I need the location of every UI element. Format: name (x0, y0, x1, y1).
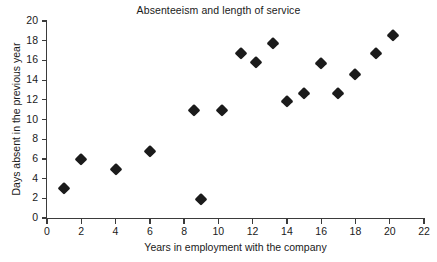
x-tick-mark (81, 219, 82, 224)
y-tick-label: 16 (14, 54, 38, 65)
data-point-marker (188, 104, 200, 116)
data-point-marker (332, 87, 344, 99)
data-point-marker (144, 145, 156, 157)
x-tick-mark (115, 219, 116, 224)
x-tick-label: 8 (172, 226, 196, 237)
data-point-marker (370, 47, 382, 59)
y-tick-label: 12 (14, 94, 38, 105)
x-tick-label: 4 (104, 226, 128, 237)
x-axis-label: Years in employment with the company (47, 241, 424, 253)
x-tick-mark (46, 219, 47, 224)
x-tick-label: 14 (275, 226, 299, 237)
y-tick-label-text: 12 (16, 94, 38, 105)
y-tick-label-text: 0 (16, 212, 38, 223)
x-tick-label: 2 (69, 226, 93, 237)
x-tick-mark (183, 219, 184, 224)
x-tick-label: 16 (309, 226, 333, 237)
y-tick-label: 20 (14, 15, 38, 26)
x-tick-label: 6 (138, 226, 162, 237)
y-tick-label-text: 8 (16, 133, 38, 144)
data-point-marker (298, 87, 310, 99)
x-tick-label: 0 (35, 226, 59, 237)
x-axis-line (47, 218, 425, 219)
x-tick-mark (286, 219, 287, 224)
data-point-marker (110, 163, 122, 175)
data-point-marker (281, 95, 293, 107)
y-tick-label: 4 (14, 173, 38, 184)
data-point-marker (349, 68, 361, 80)
data-point-marker (195, 193, 207, 205)
x-tick-mark (389, 219, 390, 224)
y-tick-label-text: 16 (16, 54, 38, 65)
y-tick-label-text: 14 (16, 74, 38, 85)
x-tick-mark (149, 219, 150, 224)
y-tick-label-text: 10 (16, 114, 38, 125)
y-tick-label-text: 6 (16, 153, 38, 164)
data-point-marker (75, 153, 87, 165)
y-tick-label: 14 (14, 74, 38, 85)
x-tick-label: 18 (343, 226, 367, 237)
y-tick-label-text: 4 (16, 173, 38, 184)
y-tick-label: 0 (14, 212, 38, 223)
y-tick-label: 2 (14, 192, 38, 203)
data-point-marker (387, 29, 399, 41)
data-point-marker (235, 47, 247, 59)
data-point-marker (58, 182, 70, 194)
data-point-marker (216, 104, 228, 116)
x-tick-label: 22 (412, 226, 436, 237)
x-tick-mark (423, 219, 424, 224)
x-tick-label: 10 (206, 226, 230, 237)
y-tick-label-text: 2 (16, 192, 38, 203)
plot-area (47, 21, 424, 218)
x-tick-mark (218, 219, 219, 224)
y-tick-label-text: 18 (16, 35, 38, 46)
y-tick-label: 8 (14, 133, 38, 144)
x-tick-mark (355, 219, 356, 224)
y-tick-label-text: 20 (16, 15, 38, 26)
x-tick-label: 12 (241, 226, 265, 237)
y-tick-label: 10 (14, 114, 38, 125)
x-tick-label: 20 (378, 226, 402, 237)
data-point-marker (250, 56, 262, 68)
y-tick-label: 6 (14, 153, 38, 164)
y-tick-label: 18 (14, 35, 38, 46)
x-tick-mark (252, 219, 253, 224)
scatter-chart: Absenteeism and length of service Days a… (0, 0, 437, 262)
chart-title: Absenteeism and length of service (0, 4, 437, 16)
x-tick-mark (321, 219, 322, 224)
data-point-marker (315, 57, 327, 69)
data-point-marker (267, 37, 279, 49)
